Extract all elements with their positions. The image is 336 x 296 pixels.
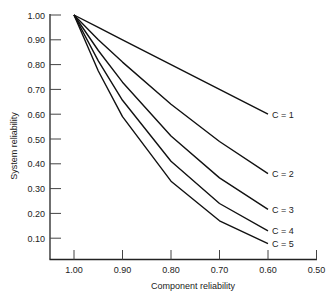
y-tick-label: 0.80: [27, 60, 45, 70]
y-tick-label: 0.50: [27, 135, 45, 145]
y-tick-label: 1.00: [27, 11, 45, 21]
series-label-c4: C = 4: [272, 226, 294, 236]
y-tick-label: 0.30: [27, 184, 45, 194]
x-axis-label: Component reliability: [151, 281, 236, 291]
series-line-c2: [74, 15, 268, 174]
y-tick-label: 0.10: [27, 234, 45, 244]
y-tick-label: 0.40: [27, 159, 45, 169]
series-label-c1: C = 1: [272, 110, 294, 120]
series-line-c4: [74, 15, 268, 231]
y-tick-label: 0.70: [27, 85, 45, 95]
x-tick-label: 0.60: [259, 265, 277, 275]
series-line-c5: [74, 15, 268, 244]
series-label-c3: C = 3: [272, 205, 294, 215]
y-axis-label: System reliability: [9, 112, 19, 180]
x-tick-label: 0.90: [114, 265, 132, 275]
series-line-c1: [74, 15, 268, 114]
y-tick-label: 0.90: [27, 35, 45, 45]
series-label-c2: C = 2: [272, 169, 294, 179]
series-label-c5: C = 5: [272, 239, 294, 249]
x-tick-label: 0.70: [211, 265, 229, 275]
x-tick-label: 0.80: [162, 265, 180, 275]
series-lines: C = 1C = 2C = 3C = 4C = 5: [74, 15, 294, 249]
y-tick-label: 0.60: [27, 110, 45, 120]
y-tick-label: 0.20: [27, 209, 45, 219]
x-tick-label: 0.50: [308, 265, 326, 275]
x-tick-label: 1.00: [65, 265, 83, 275]
reliability-chart: 1.000.900.800.700.600.500.400.300.200.10…: [0, 0, 336, 296]
